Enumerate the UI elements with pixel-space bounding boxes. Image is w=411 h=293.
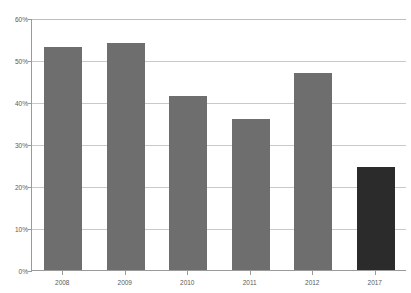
y-axis-tick-mark xyxy=(28,103,32,104)
y-axis-tick-label: 20% xyxy=(2,184,28,191)
y-axis-tick-label: 30% xyxy=(2,142,28,149)
gridline xyxy=(32,61,406,62)
y-axis-tick-label: 60% xyxy=(2,16,28,23)
x-axis-tick-label-2017: 2017 xyxy=(368,279,382,287)
y-axis-tick-label: 40% xyxy=(2,100,28,107)
x-axis-tick-label-2009: 2009 xyxy=(118,279,132,287)
gridline xyxy=(32,103,406,104)
x-axis-tick-mark xyxy=(187,271,188,275)
y-axis-tick-label: 10% xyxy=(2,226,28,233)
bar-2017 xyxy=(357,167,395,270)
y-axis-tick-mark xyxy=(28,145,32,146)
x-axis-tick-label-2012: 2012 xyxy=(305,279,319,287)
chart-title xyxy=(0,0,411,3)
gridline xyxy=(32,19,406,20)
y-axis-tick-label: 0% xyxy=(2,268,28,275)
x-axis-tick-mark xyxy=(62,271,63,275)
y-axis-tick-mark xyxy=(28,19,32,20)
y-axis-tick-mark xyxy=(28,229,32,230)
x-axis-tick-label-2011: 2011 xyxy=(243,279,257,287)
bar-2012 xyxy=(294,73,332,270)
y-axis-tick-mark xyxy=(28,61,32,62)
bar-2009 xyxy=(107,43,145,270)
gridline xyxy=(32,229,406,230)
bar-chart: 0%10%20%30%40%50%60% 2008200920102011201… xyxy=(0,0,411,293)
bar-2010 xyxy=(169,96,207,270)
plot-area xyxy=(31,19,406,271)
gridline xyxy=(32,145,406,146)
x-axis-tick-mark xyxy=(250,271,251,275)
x-axis-tick-label-2008: 2008 xyxy=(55,279,69,287)
x-axis-tick-mark xyxy=(312,271,313,275)
x-axis-tick-label-2010: 2010 xyxy=(180,279,194,287)
x-axis-tick-mark xyxy=(375,271,376,275)
bar-2008 xyxy=(44,47,82,270)
bar-2011 xyxy=(232,119,270,270)
y-axis-tick-label: 50% xyxy=(2,58,28,65)
y-axis-tick-mark xyxy=(28,187,32,188)
x-axis-tick-mark xyxy=(125,271,126,275)
gridline xyxy=(32,187,406,188)
y-axis-tick-mark xyxy=(28,271,32,272)
